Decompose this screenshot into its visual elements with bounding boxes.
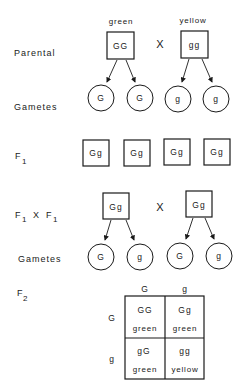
svg-text:GG: GG — [137, 305, 152, 315]
svg-text:green: green — [133, 365, 157, 374]
svg-text:2: 2 — [23, 294, 28, 303]
row-label-f2: F 2 — [17, 288, 28, 303]
punnett-col-header-1: G — [141, 284, 149, 294]
gamete-4: g — [203, 86, 229, 112]
svg-text:F: F — [15, 210, 22, 220]
svg-text:Gg: Gg — [192, 200, 205, 210]
row-label-gametes-2: Gametes — [18, 254, 62, 264]
f1-cross-symbol: X — [156, 201, 164, 213]
gamete-3: g — [165, 86, 191, 112]
f1-offspring-1: Gg — [83, 140, 109, 166]
svg-text:g: g — [216, 251, 222, 261]
svg-text:Gg: Gg — [130, 148, 143, 158]
svg-text:G: G — [97, 252, 105, 262]
arrow-to-f1-gamete-2 — [126, 220, 134, 240]
parent-right-genotype: gg — [189, 40, 200, 50]
arrow-to-gamete-2 — [126, 60, 135, 82]
parent-right-phenotype: yellow — [179, 16, 206, 25]
arrow-to-gamete-1 — [107, 60, 117, 82]
punnett-row-header-1: G — [108, 313, 116, 323]
f1-gamete-3: G — [167, 243, 193, 269]
f1-cross-right: Gg — [186, 191, 212, 217]
svg-text:Gg: Gg — [170, 147, 183, 157]
parental-cross-symbol: X — [156, 38, 164, 50]
monohybrid-cross-diagram: Parental Gametes F 1 F 1 X F 1 Gametes F… — [0, 0, 242, 389]
svg-text:Gg: Gg — [109, 202, 122, 212]
gamete-1: G — [88, 85, 114, 111]
gamete-2: G — [127, 85, 153, 111]
f1-offspring-2: Gg — [124, 140, 150, 166]
parent-left-genotype: GG — [113, 41, 128, 51]
svg-text:F: F — [46, 210, 53, 220]
svg-text:X: X — [33, 210, 40, 220]
svg-text:Gg: Gg — [89, 148, 102, 158]
f1-cross-left: Gg — [103, 193, 129, 219]
arrow-to-gamete-4 — [202, 59, 212, 82]
svg-text:green: green — [133, 324, 157, 333]
svg-text:1: 1 — [22, 215, 27, 224]
punnett-square: G g G g GG green Gg green gG green gg ye… — [108, 284, 204, 379]
arrow-to-f1-gamete-1 — [105, 220, 111, 240]
row-label-gametes-1: Gametes — [14, 102, 58, 112]
svg-text:G: G — [136, 93, 144, 103]
arrow-to-f1-gamete-4 — [205, 218, 214, 239]
arrow-to-f1-gamete-3 — [186, 218, 193, 239]
arrow-to-gamete-3 — [182, 59, 189, 82]
row-label-f1-x-f1: F 1 X F 1 — [15, 210, 58, 224]
svg-text:gg: gg — [179, 346, 190, 356]
svg-text:Gg: Gg — [178, 305, 191, 315]
svg-text:g: g — [213, 94, 219, 104]
row-label-parental: Parental — [14, 48, 56, 58]
f1-offspring-4: Gg — [204, 139, 230, 165]
f1-gamete-2: g — [127, 244, 153, 270]
svg-text:Gg: Gg — [210, 147, 223, 157]
svg-text:green: green — [173, 324, 197, 333]
f1-offspring-3: Gg — [164, 139, 190, 165]
f1-gamete-1: G — [88, 244, 114, 270]
svg-text:yellow: yellow — [171, 365, 198, 374]
svg-text:1: 1 — [22, 157, 27, 166]
svg-text:G: G — [97, 93, 105, 103]
svg-text:F: F — [15, 151, 22, 161]
svg-text:gG: gG — [137, 346, 150, 356]
row-label-f1: F 1 — [15, 151, 27, 166]
punnett-col-header-2: g — [182, 284, 188, 294]
f1-gamete-4: g — [206, 243, 232, 269]
parent-left-phenotype: green — [109, 17, 133, 26]
svg-text:G: G — [176, 251, 184, 261]
svg-text:1: 1 — [53, 215, 58, 224]
punnett-row-header-2: g — [109, 354, 115, 364]
svg-text:g: g — [137, 252, 143, 262]
svg-text:g: g — [175, 94, 181, 104]
